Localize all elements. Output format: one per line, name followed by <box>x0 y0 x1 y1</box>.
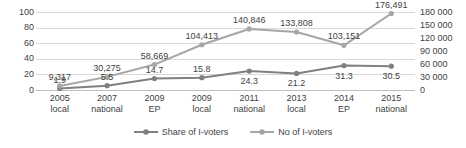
category-kind: local <box>50 104 70 115</box>
data-label: 5.5 <box>101 73 114 82</box>
category-kind: local <box>192 104 212 115</box>
data-label: 103,151 <box>328 32 361 41</box>
category-kind: national <box>233 104 265 115</box>
data-label: 176,491 <box>375 1 408 10</box>
data-label: 140,846 <box>233 16 266 25</box>
data-label: 31.3 <box>335 72 353 81</box>
data-label: 104,413 <box>186 32 219 41</box>
category-kind: local <box>287 104 307 115</box>
data-point[interactable] <box>247 68 252 73</box>
left-axis-tick: 0 <box>29 86 34 95</box>
category-label: 2015national <box>376 93 408 115</box>
right-axis-tick: 0 <box>420 86 425 95</box>
plot-area: 1.95.514.715.824.321.231.330.59,31730,27… <box>36 12 415 90</box>
legend-label: No of I-voters <box>278 128 332 137</box>
data-point[interactable] <box>104 83 109 88</box>
category-label: 2007national <box>91 93 123 115</box>
category-year: 2007 <box>91 93 123 104</box>
line-chart: 020406080100 030 00060 00090 000120 0001… <box>0 0 466 148</box>
data-label: 30,275 <box>93 64 121 73</box>
data-label: 14.7 <box>146 66 164 75</box>
left-value-axis: 020406080100 <box>4 12 34 90</box>
category-year: 2015 <box>376 93 408 104</box>
left-axis-tick: 100 <box>19 8 34 17</box>
legend-marker-icon <box>134 127 158 137</box>
category-year: 2011 <box>233 93 265 104</box>
data-label: 133,808 <box>280 19 313 28</box>
category-label: 2013local <box>287 93 307 115</box>
category-year: 2005 <box>50 93 70 104</box>
category-label: 2009EP <box>144 93 164 115</box>
axis-baseline <box>36 90 415 91</box>
category-year: 2014 <box>334 93 354 104</box>
data-point[interactable] <box>199 42 204 47</box>
category-kind: national <box>91 104 123 115</box>
category-label: 2014EP <box>334 93 354 115</box>
category-year: 2013 <box>287 93 307 104</box>
left-axis-tick: 60 <box>24 39 34 48</box>
category-kind: EP <box>144 104 164 115</box>
legend-label: Share of I-voters <box>162 128 229 137</box>
data-point[interactable] <box>152 76 157 81</box>
data-point[interactable] <box>199 75 204 80</box>
left-axis-tick: 20 <box>24 70 34 79</box>
category-kind: national <box>376 104 408 115</box>
right-axis-tick: 150 000 <box>420 21 453 30</box>
right-axis-tick: 60 000 <box>420 60 448 69</box>
category-kind: EP <box>334 104 354 115</box>
legend-marker-icon <box>250 127 274 137</box>
data-label: 21.2 <box>288 79 306 88</box>
data-point[interactable] <box>247 26 252 31</box>
data-label: 15.8 <box>193 65 211 74</box>
category-label: 2009local <box>192 93 212 115</box>
data-label: 30.5 <box>383 72 401 81</box>
left-axis-tick: 40 <box>24 54 34 63</box>
legend-item-2[interactable]: No of I-voters <box>250 127 332 137</box>
category-year: 2009 <box>192 93 212 104</box>
category-label: 2011national <box>233 93 265 115</box>
data-point[interactable] <box>294 29 299 34</box>
category-axis: 2005local2007national2009EP2009local2011… <box>36 93 415 121</box>
right-axis-tick: 90 000 <box>420 47 448 56</box>
data-label: 24.3 <box>240 77 258 86</box>
data-point[interactable] <box>341 63 346 68</box>
chart-legend: Share of I-votersNo of I-voters <box>0 127 466 137</box>
right-axis-tick: 180 000 <box>420 8 453 17</box>
data-label: 9,317 <box>48 73 71 82</box>
series-layer <box>36 12 415 90</box>
data-point[interactable] <box>389 11 394 16</box>
category-year: 2009 <box>144 93 164 104</box>
category-label: 2005local <box>50 93 70 115</box>
data-label: 58,669 <box>141 52 169 61</box>
data-point[interactable] <box>389 64 394 69</box>
data-point[interactable] <box>294 71 299 76</box>
left-axis-tick: 80 <box>24 23 34 32</box>
right-axis-tick: 30 000 <box>420 73 448 82</box>
right-axis-tick: 120 000 <box>420 34 453 43</box>
data-point[interactable] <box>341 43 346 48</box>
right-value-axis: 030 00060 00090 000120 000150 000180 000 <box>420 12 466 90</box>
legend-item-1[interactable]: Share of I-voters <box>134 127 229 137</box>
